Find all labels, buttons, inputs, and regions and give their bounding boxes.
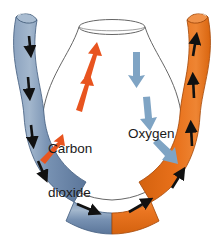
carbon-dioxide-label-line1: Carbon (48, 142, 92, 157)
flow-arrow-up-3 (191, 126, 192, 146)
chamber-rim-ellipse (79, 20, 145, 35)
oxygen-label: Oxygen (128, 127, 175, 142)
flow-arrow-up-4 (193, 78, 194, 98)
carbon-dioxide-label: Carbon dioxide (48, 113, 92, 229)
carbon-dioxide-label-line2: dioxide (48, 186, 92, 201)
flow-arrow-down-1 (29, 36, 31, 52)
flow-arrow-down-2 (28, 77, 30, 95)
diagram-canvas (0, 0, 224, 238)
gas-exchange-diagram: Carbon dioxide Oxygen (0, 0, 224, 238)
